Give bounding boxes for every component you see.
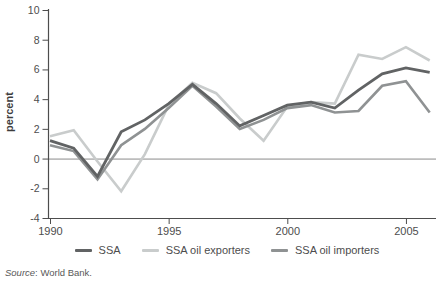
legend-swatch-oil-exporters xyxy=(142,249,159,252)
y-axis-title-text: percent xyxy=(3,62,15,162)
source-prefix: Source xyxy=(5,267,35,278)
y-tick-label: 8 xyxy=(34,34,40,46)
series-line-ssa-oil-importers xyxy=(50,81,430,179)
legend-label-ssa: SSA xyxy=(99,244,121,256)
y-axis-title: percent xyxy=(3,148,15,162)
x-tick-label: 1995 xyxy=(157,225,181,237)
x-tick-label: 2005 xyxy=(394,225,418,237)
y-tick-label: 10 xyxy=(28,4,40,16)
y-tick-label: -4 xyxy=(30,212,39,224)
y-tick-label: 6 xyxy=(34,63,40,75)
legend-item-oil-importers: SSA oil importers xyxy=(271,244,379,256)
x-tick-label: 2000 xyxy=(276,225,300,237)
x-tick-label: 1990 xyxy=(38,225,62,237)
series-line-ssa xyxy=(50,68,430,176)
line-chart-canvas: 1086420-2-41990199520002005 xyxy=(0,0,440,242)
legend-swatch-oil-importers xyxy=(271,249,288,252)
source-text: : World Bank. xyxy=(35,267,92,278)
chart-legend: SSA SSA oil exporters SSA oil importers xyxy=(0,242,440,258)
y-tick-label: -2 xyxy=(30,182,39,194)
legend-label-oil-exporters: SSA oil exporters xyxy=(166,244,250,256)
series-line-ssa-oil-exporters xyxy=(50,47,430,191)
source-note: Source: World Bank. xyxy=(5,267,92,278)
y-tick-label: 0 xyxy=(34,153,40,165)
legend-item-ssa: SSA xyxy=(75,244,121,256)
y-tick-label: 4 xyxy=(34,93,40,105)
legend-swatch-ssa xyxy=(75,249,92,252)
legend-label-oil-importers: SSA oil importers xyxy=(295,244,379,256)
legend-item-oil-exporters: SSA oil exporters xyxy=(142,244,250,256)
y-tick-label: 2 xyxy=(34,123,40,135)
chart-figure: 1086420-2-41990199520002005 percent SSA … xyxy=(0,0,440,284)
